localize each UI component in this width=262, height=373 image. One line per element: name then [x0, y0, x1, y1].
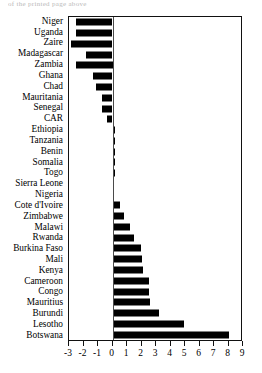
category-label: Zambia — [0, 59, 66, 70]
category-label: Somalia — [0, 157, 66, 168]
x-axis-tick-label: 5 — [182, 347, 187, 359]
bar-row — [69, 243, 241, 254]
x-axis-tick — [126, 341, 127, 346]
category-label: Burundi — [0, 308, 66, 319]
category-label: Ghana — [0, 70, 66, 81]
bar-row — [69, 125, 241, 136]
bar-row — [69, 49, 241, 60]
x-axis-tick-label: -1 — [93, 347, 101, 359]
bar-row — [69, 71, 241, 82]
category-label: Burkina Faso — [0, 243, 66, 254]
bar — [113, 213, 125, 220]
category-label: Tanzania — [0, 135, 66, 146]
category-axis-labels: NigerUgandaZaireMadagascarZambiaGhanaCha… — [0, 16, 66, 341]
category-label: Uganda — [0, 27, 66, 38]
bar-row — [69, 157, 241, 168]
bar-row — [69, 200, 241, 211]
bar — [93, 73, 113, 80]
bar-row — [69, 254, 241, 265]
bar — [76, 19, 113, 26]
bar — [113, 223, 130, 230]
page-crop-artifact: of the printed page above — [8, 0, 188, 8]
x-axis-tick-label: -3 — [64, 347, 72, 359]
bar — [113, 202, 121, 209]
category-label: Benin — [0, 146, 66, 157]
bar-row — [69, 17, 241, 28]
bar-row — [69, 232, 241, 243]
bar — [76, 62, 112, 69]
bar-series — [69, 17, 241, 340]
bar-row — [69, 286, 241, 297]
bar — [102, 105, 112, 112]
plot-area — [68, 16, 242, 341]
bar-row — [69, 211, 241, 222]
bar-chart-figure: of the printed page above NigerUgandaZai… — [0, 0, 262, 373]
bar-row — [69, 189, 241, 200]
bar-row — [69, 82, 241, 93]
bar — [113, 320, 184, 327]
bar-row — [69, 60, 241, 71]
bar — [113, 245, 141, 252]
category-label: Botswana — [0, 330, 66, 341]
category-label: Rwanda — [0, 233, 66, 244]
bar-row — [69, 222, 241, 233]
bar — [76, 30, 113, 37]
x-axis-tick — [213, 341, 214, 346]
zero-axis-line — [113, 17, 114, 340]
bar — [96, 83, 113, 90]
x-axis-tick — [199, 341, 200, 346]
category-label: Kenya — [0, 265, 66, 276]
category-label: Ethiopia — [0, 124, 66, 135]
category-label: Malawi — [0, 222, 66, 233]
bar — [86, 51, 113, 58]
bar — [102, 94, 112, 101]
bar — [113, 277, 149, 284]
category-label: Madagascar — [0, 48, 66, 59]
bar-row — [69, 168, 241, 179]
bar — [71, 40, 112, 47]
category-label: Mauritania — [0, 92, 66, 103]
bar-row — [69, 28, 241, 39]
bar-row — [69, 308, 241, 319]
category-label: Cameroon — [0, 276, 66, 287]
category-label: Nigeria — [0, 189, 66, 200]
x-axis-tick — [155, 341, 156, 346]
x-axis-tick — [112, 341, 113, 346]
bar — [113, 288, 150, 295]
category-label: Mali — [0, 254, 66, 265]
bar-row — [69, 135, 241, 146]
bar-row — [69, 318, 241, 329]
bar-row — [69, 39, 241, 50]
bar — [113, 266, 143, 273]
bar — [113, 310, 159, 317]
category-label: Lesotho — [0, 319, 66, 330]
x-axis-tick-label: 2 — [138, 347, 143, 359]
category-label: CAR — [0, 113, 66, 124]
bar — [113, 299, 151, 306]
category-label: Congo — [0, 287, 66, 298]
bar-row — [69, 114, 241, 125]
bar-row — [69, 329, 241, 340]
x-axis-tick-label: 9 — [240, 347, 245, 359]
category-label: Sierra Leone — [0, 178, 66, 189]
x-axis-tick-label: 6 — [196, 347, 201, 359]
x-axis-tick — [184, 341, 185, 346]
x-axis-tick-label: 8 — [225, 347, 230, 359]
x-axis-tick-label: 4 — [167, 347, 172, 359]
x-axis-tick — [97, 341, 98, 346]
category-label: Zaire — [0, 38, 66, 49]
x-axis-tick-label: 1 — [124, 347, 129, 359]
bar — [113, 234, 135, 241]
category-label: Senegal — [0, 103, 66, 114]
category-label: Zimbabwe — [0, 211, 66, 222]
bar-row — [69, 92, 241, 103]
category-label: Togo — [0, 168, 66, 179]
category-label: Mauritius — [0, 298, 66, 309]
bar-row — [69, 265, 241, 276]
x-axis-tick — [141, 341, 142, 346]
x-axis-tick-label: -2 — [79, 347, 87, 359]
x-axis-tick — [170, 341, 171, 346]
category-label: Cote d'Ivoire — [0, 200, 66, 211]
x-axis-tick — [228, 341, 229, 346]
x-axis-tick — [242, 341, 243, 346]
